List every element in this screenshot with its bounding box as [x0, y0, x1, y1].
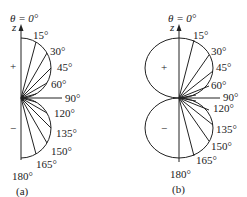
svg-text:165°: 165° [36, 158, 57, 170]
svg-text:60°: 60° [211, 79, 226, 91]
caption-a: (a) [16, 185, 29, 197]
caption-b: (b) [172, 183, 185, 196]
svg-text:135°: 135° [216, 123, 237, 135]
svg-text:30°: 30° [50, 45, 65, 57]
svg-text:45°: 45° [57, 61, 72, 73]
svg-text:120°: 120° [213, 102, 234, 114]
svg-text:165°: 165° [196, 154, 217, 166]
svg-text:150°: 150° [211, 140, 232, 152]
svg-text:−: − [161, 122, 167, 134]
svg-text:90°: 90° [65, 92, 80, 104]
svg-text:15°: 15° [193, 29, 208, 41]
svg-text:−: − [10, 122, 16, 134]
svg-text:180°: 180° [12, 170, 33, 182]
axis-arrow-icon [177, 24, 182, 31]
svg-text:120°: 120° [54, 107, 75, 119]
svg-text:150°: 150° [51, 145, 72, 157]
svg-text:45°: 45° [216, 61, 231, 73]
svg-text:15°: 15° [33, 29, 48, 41]
z-label: z [169, 21, 175, 33]
svg-text:180°: 180° [170, 168, 191, 180]
polar-diagram: θ = 0° z + − 15° 30° 45° 60° 90° 120° 13… [0, 0, 247, 197]
panel-b [145, 24, 220, 162]
svg-text:135°: 135° [56, 127, 77, 139]
axis-arrow-icon [19, 24, 24, 31]
svg-text:60°: 60° [51, 78, 66, 90]
svg-text:+: + [161, 61, 167, 73]
svg-text:30°: 30° [211, 45, 226, 57]
z-label: z [11, 21, 17, 33]
svg-text:+: + [10, 60, 16, 72]
